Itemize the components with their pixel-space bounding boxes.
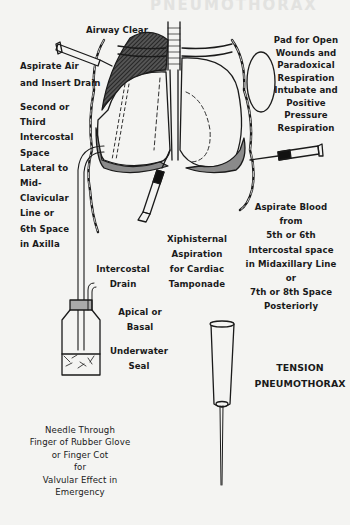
label-airway-clear: Airway Clear (72, 24, 162, 37)
label-intercostal-drain: Intercostal Drain (88, 262, 158, 292)
label-apical-basal: Apical or Basal (110, 305, 170, 335)
label-aspirate-blood: Aspirate Blood from 5th or 6th Intercost… (238, 200, 344, 314)
label-underwater-seal: Underwater Seal (106, 344, 172, 374)
label-xiphisternal: Xiphisternal Aspiration for Cardiac Tamp… (160, 232, 234, 292)
diagram-title: TENSION PNEUMOTHORAX (250, 360, 350, 392)
label-insertion-site: Second or Third Intercostal Space Latera… (20, 100, 74, 252)
clavicle-right (182, 44, 232, 57)
label-aspirate-air: Aspirate Air and Insert Drain (20, 58, 101, 92)
needle-finger-cot (210, 321, 234, 485)
right-lung (180, 58, 242, 167)
underwater-seal-bottle (62, 283, 100, 375)
syringe-right (250, 144, 323, 160)
label-needle-note: Needle Through Finger of Rubber Glove or… (10, 424, 150, 498)
label-pad-open-wounds: Pad for Open Wounds and Paradoxical Resp… (258, 34, 350, 134)
